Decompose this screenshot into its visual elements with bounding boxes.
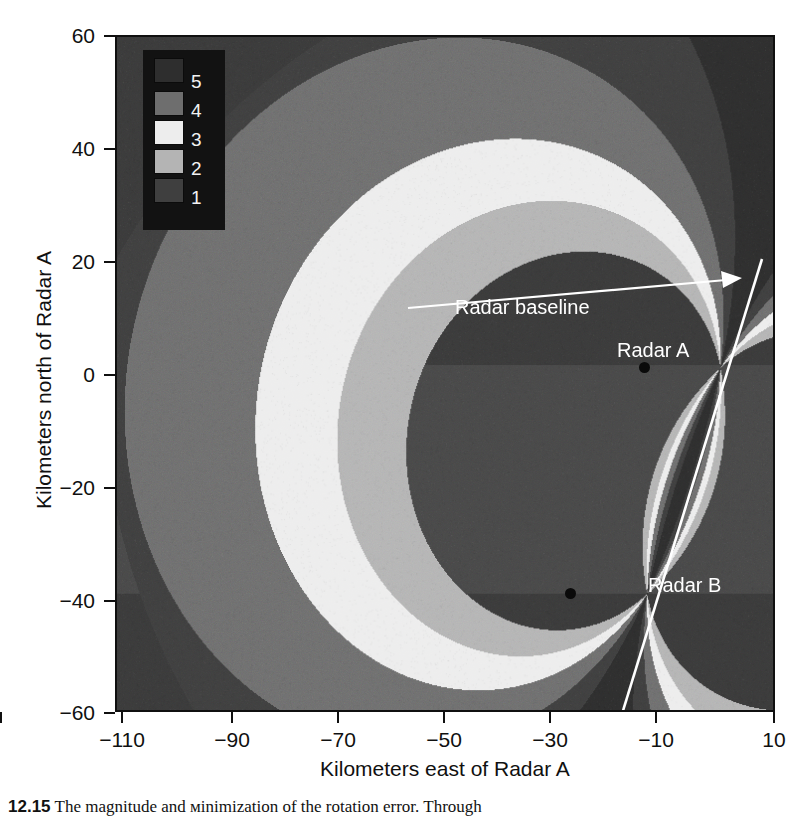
- figure-container: 5 4 3 2 1 Radar baseline Radar A Radar B…: [0, 0, 801, 820]
- y-ticklabel-40: 40: [72, 138, 95, 159]
- y-ticklabel-m60: −60: [59, 702, 95, 723]
- baseline-overlay: [117, 37, 775, 712]
- y-ticklabel-60: 60: [72, 25, 95, 46]
- x-tick-m90b: [231, 712, 233, 723]
- radar-b-marker: [565, 588, 576, 599]
- annotation-radar-baseline: Radar baseline: [455, 297, 590, 317]
- annotation-radar-a: Radar A: [617, 340, 689, 360]
- y-ticklabel-m20: −20: [59, 477, 95, 498]
- x-ticklabel-m110: −110: [77, 729, 167, 750]
- x-tick-m70: [337, 712, 339, 723]
- x-tick-m50: [443, 712, 445, 723]
- y-tick-0: [104, 374, 115, 376]
- y-ticklabel-20: 20: [72, 251, 95, 272]
- x-tick-10: [773, 712, 775, 723]
- baseline-arrowhead: [721, 271, 742, 288]
- y-tick-40: [104, 148, 115, 150]
- x-ticklabel-m10: −10: [611, 729, 701, 750]
- y-ticklabel-m40: −40: [59, 590, 95, 611]
- x-ticklabel-m30: −30: [505, 729, 595, 750]
- x-ticklabel-m90: −90: [187, 729, 277, 750]
- x-axis-title: Kilometers east of Radar A: [115, 757, 775, 781]
- y-tick-m40: [104, 600, 115, 602]
- x-ticklabel-10: 10: [729, 729, 801, 750]
- plot-area: 5 4 3 2 1: [115, 35, 775, 712]
- x-tick-m30: [549, 712, 551, 723]
- annotation-radar-b: Radar B: [648, 575, 721, 595]
- radar-a-marker: [639, 362, 650, 373]
- y-tick-20: [104, 261, 115, 263]
- x-tick-m90: [0, 712, 2, 723]
- y-ticklabel-0: 0: [83, 364, 95, 385]
- y-tick-m60: [104, 712, 115, 714]
- x-ticklabel-m70: −70: [293, 729, 383, 750]
- x-tick-m110: [121, 712, 123, 723]
- y-tick-m20: [104, 487, 115, 489]
- x-tick-m10: [655, 712, 657, 723]
- caption-text: The magnitude and міnimization of the ro…: [55, 797, 482, 816]
- x-ticklabel-m50: −50: [399, 729, 489, 750]
- caption-number: 12.15: [8, 797, 51, 816]
- radar-baseline-line: [622, 259, 762, 712]
- y-tick-60: [104, 35, 115, 37]
- y-axis-title: Kilometers north of Radar A: [32, 150, 56, 610]
- figure-caption: 12.15 The magnitude and міnimization of …: [8, 795, 798, 819]
